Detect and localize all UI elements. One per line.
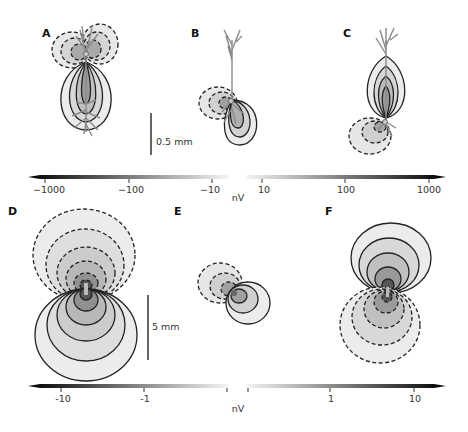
colorbar-top-unit: nV: [232, 192, 245, 203]
colorbar-top-tick: 10: [258, 184, 270, 195]
colorbar-top-tick: −1000: [33, 184, 65, 195]
panel-label-a: A: [42, 27, 51, 40]
colorbar-bottom-tick: -10: [55, 393, 71, 404]
panel-c-contours: [349, 28, 405, 154]
scalebar-top-label: 0.5 mm: [156, 136, 193, 147]
panel-b-contours: [199, 30, 257, 145]
panel-d-contours: [33, 209, 137, 381]
panel-label-c: C: [343, 27, 351, 40]
panel-a-contours: [52, 24, 118, 136]
colorbar-top-tick: −100: [118, 184, 144, 195]
panel-e-contours: [198, 263, 270, 324]
colorbar-top-tick: 1000: [417, 184, 441, 195]
figure-canvas: A B: [0, 0, 468, 432]
colorbar-bottom-tick: 10: [409, 393, 421, 404]
colorbar-bottom-tick: 1: [328, 393, 334, 404]
colorbar-top-tick: 100: [337, 184, 355, 195]
colorbar-bottom: [28, 384, 446, 392]
colorbar-top: [28, 175, 446, 183]
panel-f-contours: [340, 223, 431, 363]
panel-label-d: D: [8, 205, 17, 218]
colorbar-bottom-tick: -1: [140, 393, 149, 404]
panel-label-e: E: [174, 205, 182, 218]
colorbar-bottom-unit: nV: [232, 403, 245, 414]
panel-label-f: F: [325, 205, 333, 218]
scalebar-bottom-label: 5 mm: [152, 321, 180, 332]
panel-label-b: B: [191, 27, 199, 40]
colorbar-top-tick: −10: [200, 184, 220, 195]
